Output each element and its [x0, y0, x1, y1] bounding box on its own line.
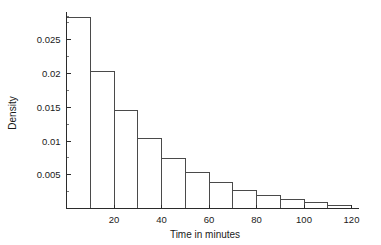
histogram-bar — [90, 71, 114, 208]
y-tick-label: 0.015 — [37, 102, 61, 113]
y-tick-label: 0.02 — [42, 68, 61, 79]
x-tick-labels: 20406080100120 — [109, 214, 360, 225]
histogram-bar — [233, 190, 257, 208]
histogram-bars — [67, 17, 352, 208]
x-tick-label: 60 — [204, 214, 215, 225]
density-histogram-plot: 0.0050.010.0150.020.025 20406080100120 T… — [0, 0, 381, 245]
histogram-bar — [162, 159, 186, 209]
y-axis-title: Density — [7, 96, 18, 129]
histogram-bar — [280, 200, 304, 209]
histogram-figure: 0.0050.010.0150.020.025 20406080100120 T… — [0, 0, 381, 245]
y-tick-label: 0.025 — [37, 34, 61, 45]
y-tick-labels: 0.0050.010.0150.020.025 — [37, 34, 61, 180]
histogram-bar — [304, 202, 328, 208]
histogram-bar — [138, 139, 162, 209]
histogram-bar — [114, 111, 138, 209]
x-tick-label: 120 — [344, 214, 360, 225]
x-axis-title: Time in minutes — [170, 229, 240, 240]
histogram-bar — [67, 17, 91, 208]
histogram-bar — [257, 196, 281, 209]
histogram-bar — [185, 173, 209, 209]
x-tick-label: 20 — [109, 214, 120, 225]
x-tick-label: 100 — [296, 214, 312, 225]
y-tick-label: 0.005 — [37, 169, 61, 180]
histogram-bar — [328, 205, 352, 208]
x-tick-label: 40 — [156, 214, 167, 225]
y-tick-label: 0.01 — [42, 136, 61, 147]
histogram-bar — [209, 183, 233, 209]
x-tick-label: 80 — [251, 214, 262, 225]
